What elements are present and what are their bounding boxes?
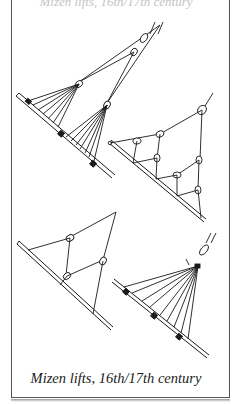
panel-bottom-right (112, 233, 216, 358)
frame-shadow (11, 399, 230, 402)
panel-right-middle (108, 93, 213, 222)
mizen-lifts-diagram (0, 0, 232, 404)
panel-top-left (16, 22, 163, 178)
panel-bottom-left (17, 212, 116, 330)
figure-caption: Mizen lifts, 16th/17th century (0, 370, 232, 387)
